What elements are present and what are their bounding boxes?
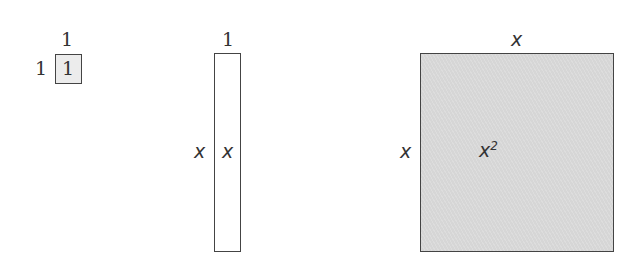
- square-tile-side-label: x: [400, 142, 411, 161]
- unit-tile-top-label: 1: [61, 30, 73, 49]
- square-tile-top-label: x: [511, 30, 522, 49]
- bar-tile-top-label: 1: [222, 30, 234, 49]
- unit-tile-side-label: 1: [35, 59, 47, 78]
- square-base: x: [479, 139, 490, 161]
- unit-tile: 1: [55, 54, 82, 84]
- x-squared-tile: x2: [420, 53, 614, 252]
- bar-tile-inner-label: x: [222, 142, 233, 161]
- unit-tile-inner-label: 1: [62, 59, 74, 78]
- bar-tile-side-label: x: [194, 142, 205, 161]
- x-bar-tile: x: [214, 53, 241, 252]
- square-tile-inner-label: x2: [479, 140, 498, 160]
- square-exponent: 2: [490, 139, 498, 153]
